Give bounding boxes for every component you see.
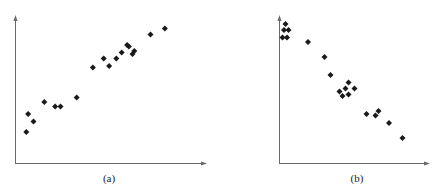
- data-point-diamond-icon: [113, 56, 119, 62]
- scatter-panel-a: [14, 15, 208, 166]
- scatter-panel-b: [278, 15, 431, 166]
- data-point-diamond-icon: [162, 26, 168, 32]
- data-points-a: [23, 26, 168, 136]
- panel-caption-b: (b): [351, 172, 364, 184]
- data-point-diamond-icon: [119, 50, 125, 56]
- data-point-diamond-icon: [400, 135, 406, 141]
- data-point-diamond-icon: [376, 108, 382, 114]
- data-point-diamond-icon: [322, 54, 328, 60]
- data-point-diamond-icon: [286, 27, 292, 33]
- data-point-diamond-icon: [337, 89, 343, 95]
- data-point-diamond-icon: [328, 72, 334, 78]
- figure-canvas: [0, 0, 438, 191]
- data-point-diamond-icon: [90, 65, 96, 71]
- x-axis-arrow-icon: [201, 162, 207, 166]
- data-point-diamond-icon: [25, 111, 31, 117]
- data-point-diamond-icon: [373, 113, 379, 119]
- data-point-diamond-icon: [340, 93, 346, 99]
- data-point-diamond-icon: [346, 80, 352, 86]
- data-point-diamond-icon: [52, 104, 58, 110]
- y-axis-arrow-icon: [278, 15, 282, 21]
- data-point-diamond-icon: [352, 86, 358, 92]
- data-point-diamond-icon: [101, 56, 107, 62]
- y-axis-arrow-icon: [14, 15, 18, 21]
- data-point-diamond-icon: [386, 120, 392, 126]
- data-point-diamond-icon: [41, 99, 47, 105]
- x-axis-arrow-icon: [424, 162, 430, 166]
- data-point-diamond-icon: [148, 32, 154, 38]
- panel-caption-a: (a): [103, 172, 115, 184]
- data-point-diamond-icon: [58, 104, 64, 110]
- data-point-diamond-icon: [364, 111, 370, 117]
- data-point-diamond-icon: [343, 86, 349, 92]
- data-point-diamond-icon: [346, 92, 352, 98]
- data-point-diamond-icon: [23, 129, 29, 135]
- data-point-diamond-icon: [284, 35, 290, 41]
- data-points-b: [280, 21, 406, 141]
- data-point-diamond-icon: [74, 95, 80, 101]
- data-point-diamond-icon: [106, 63, 112, 69]
- data-point-diamond-icon: [31, 119, 37, 125]
- data-point-diamond-icon: [305, 39, 311, 45]
- data-point-diamond-icon: [283, 21, 289, 27]
